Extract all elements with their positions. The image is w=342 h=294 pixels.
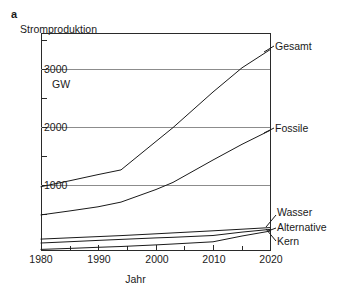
series-line-fossile bbox=[41, 130, 270, 215]
xtick-label-2020: 2020 bbox=[259, 253, 283, 265]
series-line-kern bbox=[41, 229, 270, 243]
ytick-label-3000: 3000 bbox=[44, 63, 68, 75]
series-label-alternative: Alternative bbox=[277, 221, 327, 233]
leader-gesamt bbox=[264, 46, 274, 52]
xtick-label-2000: 2000 bbox=[145, 253, 169, 265]
series-label-gesamt: Gesamt bbox=[275, 40, 312, 52]
data-series-group bbox=[41, 50, 270, 250]
gridlines bbox=[41, 70, 270, 186]
series-label-kern: Kern bbox=[277, 235, 299, 247]
leader-fossile bbox=[264, 128, 274, 133]
series-label-wasser: Wasser bbox=[277, 206, 313, 218]
series-labels-group: Gesamt Fossile Wasser Alternative Kern bbox=[264, 40, 327, 247]
series-line-gesamt bbox=[41, 50, 270, 187]
xtick-label-2010: 2010 bbox=[202, 253, 226, 265]
y-unit-label: GW bbox=[52, 78, 70, 90]
chart-plot-area: 3000 GW 2000 1000 1980 1990 2000 2010 20… bbox=[0, 0, 342, 294]
xtick-label-1990: 1990 bbox=[87, 253, 111, 265]
xtick-label-1980: 1980 bbox=[29, 253, 53, 265]
series-label-fossile: Fossile bbox=[275, 122, 308, 134]
ytick-label-2000: 2000 bbox=[44, 121, 68, 133]
